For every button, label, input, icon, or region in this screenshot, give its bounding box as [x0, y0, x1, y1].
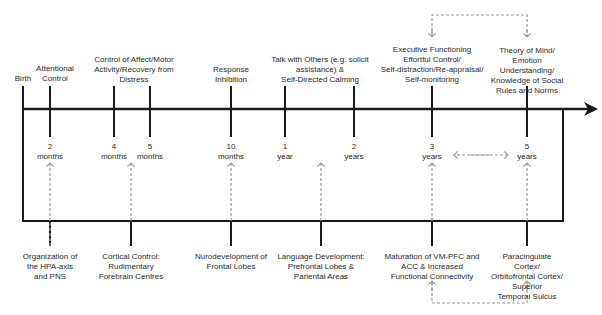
age-2-months: 2 months: [37, 142, 63, 162]
label-cortical-control: Cortical Control: Rudimentary Forebrain …: [99, 252, 163, 282]
tick-marks: [50, 86, 527, 137]
bottom-tick-marks: [50, 221, 527, 246]
age-3-years: 3 years: [422, 142, 442, 162]
label-attentional-control: Attentional Control: [36, 64, 74, 84]
label-language-development: Language Development: Prefrontal Lobes &…: [277, 252, 364, 282]
label-executive-functioning: Executive Functioning Effortful Control/…: [381, 45, 484, 85]
birth-label: Birth: [15, 74, 31, 84]
label-hpa-axis: Organization of the HPA-axis and PNS: [23, 252, 77, 282]
age-2-years: 2 years: [344, 142, 364, 162]
age-4-months: 4 months: [101, 142, 127, 162]
age-5-years: 5 years: [517, 142, 537, 162]
label-affect-control: Control of Affect/Motor Activity/Recover…: [94, 55, 174, 85]
label-theory-of-mind: Theory of Mind/ Emotion Understanding/ K…: [490, 46, 565, 96]
age-1-year: 1 year: [277, 142, 293, 162]
label-vm-pfc-maturation: Maturation of VM-PFC and ACC & Increased…: [384, 252, 479, 282]
age-10-months: 10 months: [218, 142, 244, 162]
label-talk-with-others: Talk with Others (e.g. solicit assistanc…: [271, 55, 368, 85]
label-paracingulate-cortex: Paracingulate Cortex/ Orbitofrontal Cort…: [490, 252, 565, 302]
label-response-inhibition: Response Inhibition: [213, 65, 249, 85]
age-5-months: 5 months: [137, 142, 163, 162]
label-frontal-lobes: Nurodevelopment of Frontal Lobes: [195, 252, 267, 272]
